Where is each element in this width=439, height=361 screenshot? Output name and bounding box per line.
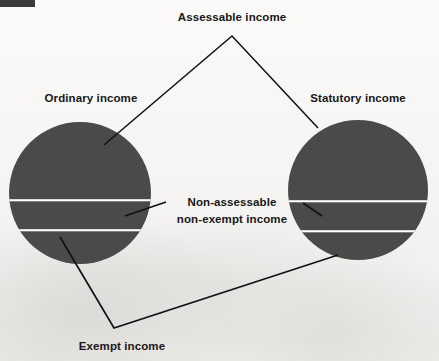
label-non-assessable-non-exempt-income: Non-assessable non-exempt income	[162, 194, 302, 228]
diagram-page: Assessable income Ordinary income Statut…	[0, 0, 439, 361]
statutory-income-circle-body	[288, 120, 428, 260]
label-assessable-income: Assessable income	[178, 9, 286, 26]
statutory-divider-assessable	[284, 200, 436, 202]
label-non-assessable-line1: Non-assessable	[188, 196, 277, 208]
income-diagram	[0, 0, 439, 361]
ordinary-income-circle	[5, 122, 157, 264]
ordinary-income-circle-body	[9, 122, 151, 264]
ordinary-divider-assessable	[5, 199, 157, 201]
label-exempt-income: Exempt income	[79, 338, 165, 355]
label-ordinary-income: Ordinary income	[45, 90, 138, 107]
ordinary-divider-exempt	[5, 229, 157, 231]
statutory-income-circle	[284, 120, 436, 260]
label-statutory-income: Statutory income	[310, 90, 406, 107]
statutory-divider-exempt	[284, 230, 436, 232]
label-non-assessable-line2: non-exempt income	[177, 213, 287, 225]
